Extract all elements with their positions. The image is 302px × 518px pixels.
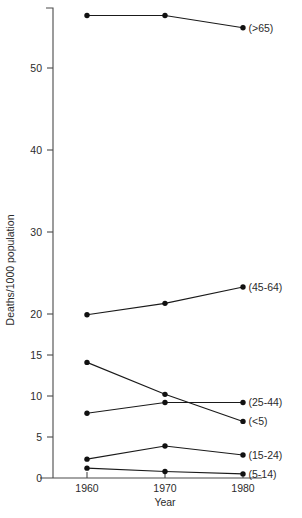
series-data-point	[240, 471, 245, 476]
chart-series-group	[84, 13, 245, 477]
series-data-point	[84, 312, 89, 317]
series-data-point	[84, 456, 89, 461]
series-label-15-24: (15-24)	[249, 449, 283, 461]
series-data-point	[162, 400, 167, 405]
series-data-point	[162, 13, 167, 18]
series-data-point	[240, 419, 245, 424]
x-tick-label: 1970	[153, 482, 177, 494]
y-tick-label: 15	[30, 349, 42, 361]
series-5	[84, 360, 245, 424]
series-data-point	[240, 452, 245, 457]
y-tick-label: 20	[30, 308, 42, 320]
series-data-point	[162, 392, 167, 397]
series-data-point	[162, 443, 167, 448]
series-45-64	[84, 284, 245, 317]
chart-canvas: 05101520304050 196019701980 (>65)(45-64)…	[0, 0, 302, 518]
series-data-point	[162, 469, 167, 474]
y-tick-label: 50	[30, 62, 42, 74]
series-data-point	[84, 13, 89, 18]
y-tick-label: 10	[30, 390, 42, 402]
series-label-25-44: (25-44)	[249, 396, 283, 408]
y-tick-label: 30	[30, 226, 42, 238]
x-axis-title: Year	[154, 496, 176, 508]
line-chart-figure: 05101520304050 196019701980 (>65)(45-64)…	[0, 0, 302, 518]
series-data-point	[240, 400, 245, 405]
series-end-labels: (>65)(45-64)(<5)(25-44)(15-24)(5-14)	[249, 22, 283, 480]
series-65	[84, 13, 245, 31]
series-15-24	[84, 443, 245, 462]
y-tick-label: 5	[36, 431, 42, 443]
series-label-45-64: (45-64)	[249, 281, 283, 293]
chart-tick-marks	[47, 68, 243, 478]
series-label-5-14: (5-14)	[249, 468, 277, 480]
y-axis-tick-labels: 05101520304050	[30, 62, 42, 484]
series-data-point	[162, 301, 167, 306]
series-data-point	[240, 284, 245, 289]
series-data-point	[84, 465, 89, 470]
series-data-point	[84, 360, 89, 365]
x-axis-tick-labels: 196019701980	[75, 482, 255, 494]
y-tick-label: 0	[36, 472, 42, 484]
y-axis-title: Deaths/1000 population	[4, 214, 16, 325]
series-data-point	[240, 25, 245, 30]
chart-axes	[40, 8, 262, 478]
series-label-5: (<5)	[249, 415, 268, 427]
x-tick-label: 1980	[231, 482, 255, 494]
series-data-point	[84, 411, 89, 416]
series-label-65: (>65)	[249, 22, 274, 34]
y-axis-line	[46, 8, 53, 478]
x-tick-label: 1960	[75, 482, 99, 494]
y-tick-label: 40	[30, 144, 42, 156]
